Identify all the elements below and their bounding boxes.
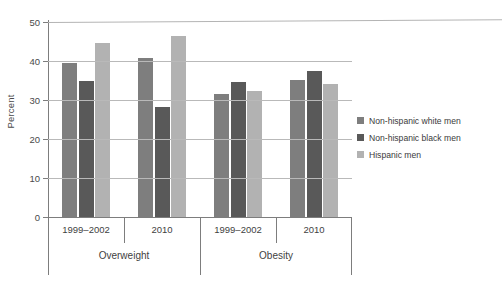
- y-tick-40: [43, 61, 48, 62]
- legend-swatch-icon: [357, 117, 364, 124]
- category-label-0: 1999–2002: [48, 224, 124, 235]
- group-label-obesity: Obesity: [200, 250, 352, 261]
- gridline-30: [48, 100, 352, 101]
- y-tick-50: [43, 22, 48, 23]
- category-label-3: 2010: [276, 224, 352, 235]
- bar-hispanic-men-2: [247, 91, 262, 217]
- bar-non-hispanic-black-men-3: [307, 71, 322, 217]
- category-axis-band: 1999–200220101999–20022010: [48, 217, 352, 243]
- legend-item-2[interactable]: Hispanic men: [357, 146, 495, 163]
- chart-legend: Non-hispanic white menNon-hispanic black…: [357, 112, 495, 163]
- group-label-overweight: Overweight: [48, 250, 200, 261]
- category-label-1: 2010: [124, 224, 200, 235]
- legend-item-label: Non-hispanic white men: [369, 116, 461, 126]
- bar-non-hispanic-white-men-2: [214, 94, 229, 217]
- y-tick-10: [43, 178, 48, 179]
- y-tick-label-40: 40: [29, 56, 40, 67]
- bar-non-hispanic-black-men-1: [155, 107, 170, 217]
- bar-series-container: [48, 22, 352, 217]
- bar-non-hispanic-black-men-2: [231, 82, 246, 217]
- bar-hispanic-men-3: [323, 84, 338, 217]
- legend-item-label: Hispanic men: [369, 150, 421, 160]
- y-tick-30: [43, 100, 48, 101]
- plot-area: 01020304050: [48, 22, 352, 217]
- y-tick-label-20: 20: [29, 134, 40, 145]
- y-tick-label-0: 0: [35, 212, 40, 223]
- bar-hispanic-men-1: [171, 36, 186, 217]
- legend-item-0[interactable]: Non-hispanic white men: [357, 112, 495, 129]
- y-tick-label-30: 30: [29, 95, 40, 106]
- y-tick-label-50: 50: [29, 17, 40, 28]
- bar-hispanic-men-0: [95, 43, 110, 217]
- legend-swatch-icon: [357, 151, 364, 158]
- bar-non-hispanic-white-men-1: [138, 58, 153, 217]
- y-tick-20: [43, 139, 48, 140]
- y-axis-label: Percent: [5, 80, 16, 144]
- gridline-10: [48, 178, 352, 179]
- category-label-2: 1999–2002: [200, 224, 276, 235]
- gridline-20: [48, 139, 352, 140]
- legend-item-label: Non-hispanic black men: [369, 133, 461, 143]
- y-tick-label-10: 10: [29, 173, 40, 184]
- group-axis-band: OverweightObesity: [48, 243, 352, 275]
- legend-swatch-icon: [357, 134, 364, 141]
- legend-item-1[interactable]: Non-hispanic black men: [357, 129, 495, 146]
- gridline-40: [48, 61, 352, 62]
